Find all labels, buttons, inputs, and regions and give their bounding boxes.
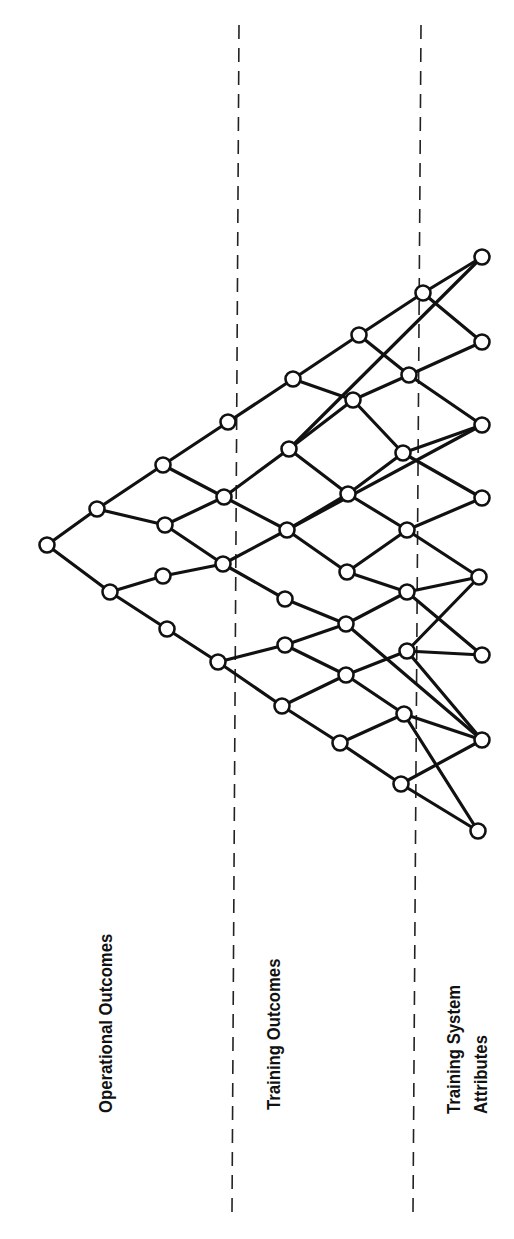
edge-F6-G6 <box>346 651 407 675</box>
edge-E2-F3 <box>289 449 348 494</box>
node-F4 <box>340 565 355 580</box>
edge-F4-G4 <box>347 530 407 572</box>
dashed-divider-div2 <box>413 25 421 1212</box>
edge-D4-E5 <box>218 645 285 662</box>
edge-G6-H6 <box>407 651 482 655</box>
node-D4 <box>211 655 226 670</box>
edge-D4-E6 <box>218 662 282 706</box>
node-H5 <box>472 570 487 585</box>
node-G7 <box>397 707 412 722</box>
edge-G8-H7 <box>401 740 482 784</box>
edge-G8-H8 <box>401 784 478 831</box>
node-C3 <box>156 569 171 584</box>
node-H8 <box>471 824 486 839</box>
edge-G1-H2 <box>423 293 482 342</box>
edge-E1-F1 <box>293 335 359 379</box>
edge-G4-H5 <box>407 530 479 577</box>
edge-E6-F6 <box>282 675 346 706</box>
edge-C1-D1 <box>163 422 228 465</box>
node-C1 <box>156 458 171 473</box>
edge-D2-E3 <box>224 497 287 530</box>
node-F1 <box>352 328 367 343</box>
node-E2 <box>282 442 297 457</box>
hierarchy-diagram <box>0 0 514 1239</box>
node-G1 <box>416 286 431 301</box>
edge-D3-E4 <box>223 564 285 599</box>
edge-E3-H3 <box>287 425 482 530</box>
label-operational-outcomes-text: Operational Outcomes <box>92 934 119 1113</box>
node-B1 <box>90 502 105 517</box>
node-A <box>40 538 55 553</box>
node-D3 <box>216 557 231 572</box>
node-H6 <box>475 648 490 663</box>
node-E6 <box>275 699 290 714</box>
node-E5 <box>278 638 293 653</box>
edge-E6-F7 <box>282 706 340 743</box>
label-training-system-attributes: Training System Attributes <box>440 985 494 1114</box>
edge-B1-C2 <box>97 509 165 525</box>
edge-E4-F5 <box>285 599 346 624</box>
edge-C3-D3 <box>163 564 223 576</box>
dashed-divider-div1 <box>232 25 239 1212</box>
edge-F3-G4 <box>348 494 407 530</box>
node-G5 <box>400 585 415 600</box>
edge-D3-E3 <box>223 530 287 564</box>
edge-E5-F6 <box>285 645 346 675</box>
edge-E1-F2 <box>293 379 353 400</box>
node-H1 <box>475 250 490 265</box>
node-E3 <box>280 523 295 538</box>
node-D2 <box>217 490 232 505</box>
edge-C1-D2 <box>163 465 224 497</box>
edge-F7-G8 <box>340 743 401 784</box>
edge-D1-E1 <box>228 379 293 422</box>
edge-D2-E2 <box>224 449 289 497</box>
node-F3 <box>341 487 356 502</box>
label-operational-outcomes: Operational Outcomes <box>92 934 119 1113</box>
diagram-nodes <box>40 250 490 839</box>
node-B2 <box>103 585 118 600</box>
node-H7 <box>475 733 490 748</box>
edge-G2-H3 <box>409 375 482 425</box>
edge-A-B1 <box>47 509 97 545</box>
edge-G2-H2 <box>409 342 482 375</box>
label-attributes-text: Attributes <box>467 985 494 1114</box>
node-G2 <box>402 368 417 383</box>
edge-C4-D4 <box>167 629 218 662</box>
node-D1 <box>221 415 236 430</box>
edge-F1-G1 <box>359 293 423 335</box>
label-training-outcomes-text: Training Outcomes <box>260 959 287 1110</box>
node-H2 <box>475 335 490 350</box>
edge-E5-F5 <box>285 624 346 645</box>
edge-F6-G7 <box>346 675 404 714</box>
node-C2 <box>158 518 173 533</box>
label-training-system-text: Training System <box>440 985 467 1114</box>
edge-G3-H3 <box>403 425 482 453</box>
edge-B1-C1 <box>97 465 163 509</box>
node-E1 <box>286 372 301 387</box>
node-F5 <box>339 617 354 632</box>
edge-G5-H6 <box>407 592 482 655</box>
edge-A-B2 <box>47 545 110 592</box>
edge-F5-H7 <box>346 624 482 740</box>
node-E4 <box>278 592 293 607</box>
edge-F4-G5 <box>347 572 407 592</box>
node-F7 <box>333 736 348 751</box>
edge-F2-G3 <box>353 400 403 453</box>
node-G6 <box>400 644 415 659</box>
node-H4 <box>475 491 490 506</box>
edge-E3-F4 <box>287 530 347 572</box>
edge-B2-C4 <box>110 592 167 629</box>
edge-C2-D2 <box>165 497 224 525</box>
edge-F7-G7 <box>340 714 404 743</box>
edge-C2-D3 <box>165 525 223 564</box>
edge-F1-G2 <box>359 335 409 375</box>
node-H3 <box>475 418 490 433</box>
node-C4 <box>160 622 175 637</box>
node-G4 <box>400 523 415 538</box>
node-G8 <box>394 777 409 792</box>
node-F6 <box>339 668 354 683</box>
node-F2 <box>346 393 361 408</box>
edge-F5-G5 <box>346 592 407 624</box>
edge-E2-H1 <box>289 257 482 449</box>
node-G3 <box>396 446 411 461</box>
